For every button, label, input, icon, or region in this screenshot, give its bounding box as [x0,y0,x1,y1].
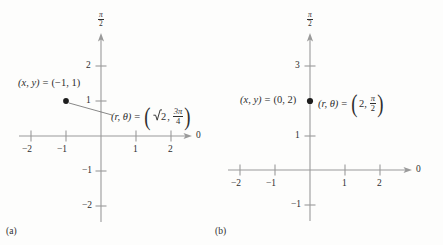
panel-b-cartesian-label: (x, y)=(0, 2) [240,95,296,106]
panel-b-ytick-3: 3 [295,61,300,71]
panel-a-ytick-2: 2 [86,61,91,71]
panel-b-theta-fraction: π 2 [370,94,376,113]
panel-a-radicand: 2 [161,111,166,122]
panel-a-xtick-1: 1 [133,145,138,155]
panel-a-caption: (a) [6,227,17,237]
panel-b-cartesian-lhs: (x, y) [240,94,262,105]
panel-a-polar-label: (r, θ)=( 2, 3π 4 ) [111,108,192,127]
panel-b-axis-head-denominator: 2 [307,20,313,28]
panel-a-vertical-axis-head: π 2 [94,12,108,29]
panel-b-polar-label: (r, θ)=(2, π 2 ) [318,95,385,114]
panel-b-ytick--1: −1 [291,200,301,210]
panel-a-ytick--2: −2 [82,201,92,211]
panel-b-polar-lhs: (r, θ) [318,98,338,109]
panel-a-polar-lhs: (r, θ) [111,111,131,122]
panel-a-xtick--2: −2 [22,145,32,155]
panel-b-vertical-axis-head: π 2 [303,12,317,29]
panel-a-cartesian-label: (x, y)=(−1, 1) [18,78,80,89]
panel-b-theta-denominator: 2 [370,104,376,113]
panel-a-radical-group: 2 [152,109,167,122]
panel-b-ytick-1: 1 [295,131,300,141]
panel-b-caption: (b) [215,227,226,237]
panel-a-axis-head-denominator: 2 [98,20,104,28]
data-point-a [63,98,69,104]
panel-a-cartesian-equals: = [40,77,52,88]
panel-b-xtick-1: 1 [342,179,347,189]
panel-b-xtick--1: −1 [266,179,276,189]
panel-a-ytick-1: 1 [86,96,91,106]
panel-a-theta-denominator: 4 [173,117,184,126]
panel-b-xtick--2: −2 [231,179,241,189]
panel-a-cartesian-rhs: (−1, 1) [52,77,81,88]
panel-b-axes [210,0,443,245]
panel-b-open-paren: ( [351,96,357,112]
panel-b: π 2 0 −2 −1 1 2 3 1 −1 (x, y)=(0, 2) (r,… [210,0,443,245]
panel-b-polar-equals: = [338,98,350,109]
panel-a-xtick-2: 2 [168,145,173,155]
panel-b-close-paren: ) [377,96,383,112]
panel-b-cartesian-rhs: (0, 2) [274,94,297,105]
panel-b-cartesian-equals: = [262,94,274,105]
panel-a: π 2 0 −2 −1 1 2 2 1 −1 −2 (x, y)=(−1, 1)… [0,0,222,245]
figure-root: π 2 0 −2 −1 1 2 2 1 −1 −2 (x, y)=(−1, 1)… [0,0,443,245]
panel-a-polar-separator: , [167,111,170,122]
panel-a-polar-equals: = [131,111,143,122]
panel-a-ytick--1: −1 [82,166,92,176]
panel-b-horizontal-axis-head: 0 [416,165,421,175]
panel-a-xtick--1: −1 [57,145,67,155]
panel-a-cartesian-lhs: (x, y) [18,77,40,88]
panel-a-theta-fraction: 3π 4 [173,107,184,126]
panel-b-xtick-2: 2 [377,179,382,189]
panel-a-horizontal-axis-head: 0 [196,131,201,141]
panel-b-polar-separator: , [364,98,367,109]
data-point-b [307,98,313,104]
panel-a-close-paren: ) [185,109,191,125]
panel-a-open-paren: ( [144,109,150,125]
